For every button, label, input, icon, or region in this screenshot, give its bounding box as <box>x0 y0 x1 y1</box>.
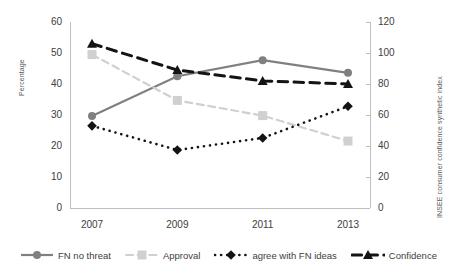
series-confidence <box>87 39 353 88</box>
legend-item-confidence[interactable]: Confidence <box>351 249 437 261</box>
legend-label: Approval <box>163 250 201 261</box>
legend-swatch-triangle-icon <box>351 249 385 261</box>
legend-label: agree with FN ideas <box>252 250 336 261</box>
legend-swatch-square-icon <box>125 249 159 261</box>
legend-label: Confidence <box>389 250 437 261</box>
legend-swatch-circle-icon <box>20 249 54 261</box>
line-chart: Percentage INSEE consumer confidence syn… <box>0 0 457 278</box>
legend-item-fn-no-threat[interactable]: FN no threat <box>20 249 111 261</box>
series-agree-with-fn-ideas <box>87 102 353 155</box>
legend-item-agree-with-fn-ideas[interactable]: agree with FN ideas <box>214 249 336 261</box>
legend-swatch-diamond-icon <box>214 249 248 261</box>
series-approval <box>88 50 353 145</box>
legend-item-approval[interactable]: Approval <box>125 249 201 261</box>
series-fn-no-threat <box>88 56 352 120</box>
legend-label: FN no threat <box>58 250 111 261</box>
series-plot-area <box>0 0 457 278</box>
chart-legend: FN no threatApprovalagree with FN ideasC… <box>0 243 457 267</box>
